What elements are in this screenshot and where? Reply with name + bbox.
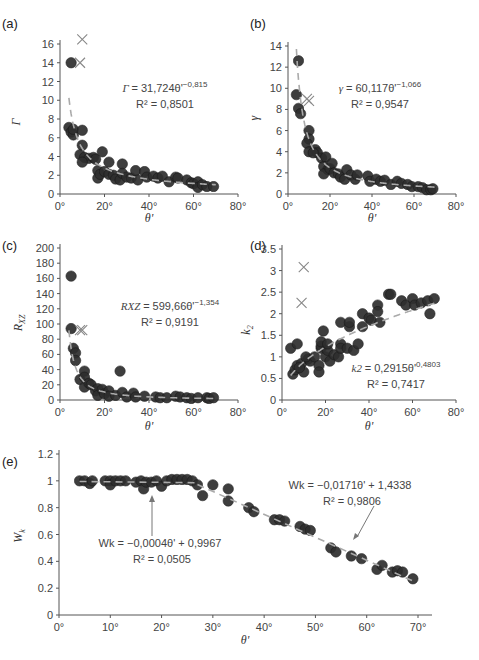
y-tick-label: 20 [42,379,54,391]
y-tick-label: 40 [42,364,54,376]
arrow-line [357,506,374,537]
y-axis-label: Γ [9,117,23,126]
y-tick-label: 140 [36,288,54,300]
data-point [397,567,407,577]
y-tick-label: 10 [270,82,282,94]
x-tick-label: 20° [96,200,113,212]
x-tick-label: 80° [448,406,465,418]
y-tick-label: 160 [36,272,54,284]
panel-label: (a) [2,16,18,31]
x-tick-label: 80° [230,406,247,418]
x-axis-label: θ' [145,211,154,225]
figure-canvas: (a)02468101214160°20°40°60°80°θ'ΓΓ = 31,… [0,0,479,660]
data-point [104,157,114,167]
y-tick-label: 0 [47,609,53,621]
x-tick-label: 0° [54,621,65,633]
data-point [208,181,218,191]
y-tick-label: 0 [270,394,276,406]
data-point [373,306,383,316]
panel-label: (c) [2,238,17,253]
x-axis-label: θ' [368,211,377,225]
x-tick-label: 0° [277,406,288,418]
x-tick-label: 80° [230,200,247,212]
data-point [77,157,87,167]
data-point [197,490,207,500]
y-tick-label: 14 [42,57,54,69]
data-point [429,293,439,303]
x-tick-label: 70° [410,621,427,633]
outlier-marker-x [297,298,307,308]
y-tick-label: 80 [42,333,54,345]
data-point [314,367,324,377]
fit-curve [296,49,435,187]
y-tick-label: 0.2 [38,582,53,594]
x-tick-label: 60° [404,406,421,418]
data-point [294,362,304,372]
x-tick-label: 0° [283,200,294,212]
data-point [428,184,438,194]
y-tick-label: 3 [270,265,276,277]
y-tick-label: 10 [42,94,54,106]
data-point [386,289,396,299]
y-tick-label: 180 [36,257,54,269]
chart-panel-e: (e)00.20.40.60.811.20°10°20°30°40°50°60°… [2,448,432,647]
x-tick-label: 20° [322,200,339,212]
y-tick-label: 2 [270,308,276,320]
y-tick-label: 8 [48,113,54,125]
x-tick-label: 50° [307,621,324,633]
x-tick-label: 40° [256,621,273,633]
y-tick-label: 3.5 [261,243,276,255]
data-point [344,317,354,327]
data-point [66,323,76,333]
y-tick-label: 200 [36,242,54,254]
y-tick-label: 16 [42,38,54,50]
x-tick-label: 20° [317,406,334,418]
y-tick-label: 4 [48,151,54,163]
y-axis-label: γ [247,115,261,120]
chart-panel-c: (c)0204060801001201401601802000°20°40°60… [2,238,246,433]
x-tick-label: 40° [361,406,378,418]
r-squared: R² = 0,9547 [351,98,409,110]
panel-label: (e) [2,454,18,469]
data-point [353,339,363,349]
y-tick-label: 120 [36,303,54,315]
fit-equation: Γ = 31,724θ'−0,815 [121,80,208,94]
fit-equation-1: Wk = −0,0004θ' + 0,9967 [99,537,222,549]
y-tick-label: 1 [270,351,276,363]
data-point [293,56,303,66]
y-tick-label: 0 [48,394,54,406]
x-tick-label: 0° [55,406,66,418]
y-tick-label: 6 [276,125,282,137]
data-point [318,326,328,336]
x-tick-label: 60° [406,200,423,212]
outlier-marker-x [77,325,87,335]
y-tick-label: 0 [48,188,54,200]
y-axis-label: k2 [239,325,255,334]
y-tick-label: 0 [276,188,282,200]
fit-equation: γ = 60,117θ'−1,066 [339,80,422,94]
y-tick-label: 2 [48,169,54,181]
y-tick-label: 2 [276,167,282,179]
x-tick-label: 60° [358,621,375,633]
x-tick-label: 10° [102,621,119,633]
y-tick-label: 8 [276,103,282,115]
y-tick-label: 1 [47,475,53,487]
y-tick-label: 12 [42,76,54,88]
data-point [305,525,315,535]
x-tick-label: 20° [153,621,170,633]
data-point [295,108,305,118]
data-point [346,551,356,561]
outlier-marker-x [299,262,309,272]
x-axis-label: θ' [241,633,250,647]
data-point [66,58,76,68]
y-tick-label: 0.4 [38,555,53,567]
outlier-marker-x [77,34,87,44]
data-point [115,366,125,376]
chart-panel-a: (a)02468101214160°20°40°60°80°θ'ΓΓ = 31,… [2,16,246,225]
r-squared: R² = 0,9191 [141,316,199,328]
data-point [425,309,435,319]
data-point [97,147,107,157]
x-tick-label: 60° [185,406,202,418]
r-squared: R² = 0,7417 [367,378,425,390]
y-tick-label: 4 [276,146,282,158]
